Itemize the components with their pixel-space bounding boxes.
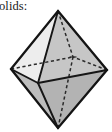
octahedron-figure bbox=[0, 0, 112, 132]
octahedron-faces bbox=[11, 11, 107, 128]
screenshot-root: olids: bbox=[0, 0, 112, 132]
octahedron-diagram bbox=[0, 0, 112, 132]
